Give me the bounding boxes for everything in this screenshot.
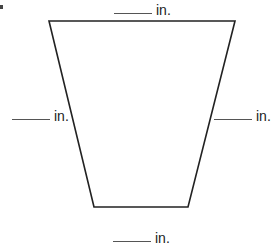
top-side-label: in. — [114, 3, 171, 17]
right-side-unit: in. — [256, 109, 271, 123]
left-side-label: in. — [12, 109, 69, 123]
top-side-unit: in. — [156, 3, 171, 17]
bottom-side-blank[interactable] — [113, 240, 151, 242]
left-side-unit: in. — [54, 109, 69, 123]
trapezoid-figure — [0, 0, 276, 248]
top-side-blank[interactable] — [114, 12, 152, 14]
right-side-blank[interactable] — [214, 118, 252, 120]
bottom-side-unit: in. — [155, 231, 170, 245]
bottom-side-label: in. — [113, 231, 170, 245]
trapezoid-outline — [49, 21, 235, 207]
right-side-label: in. — [214, 109, 271, 123]
left-side-blank[interactable] — [12, 118, 50, 120]
